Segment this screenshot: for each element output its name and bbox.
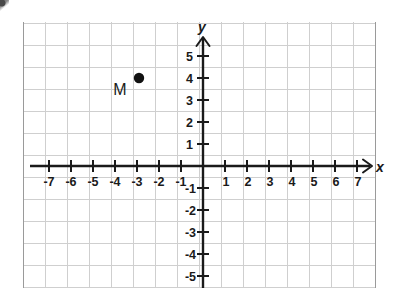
x-tick-label: -2 (153, 175, 164, 189)
x-tick-label: -3 (131, 175, 142, 189)
x-tick-label: 6 (333, 175, 340, 189)
y-tick-label: -1 (185, 182, 196, 196)
x-tick-label: 7 (355, 175, 362, 189)
y-tick-label: 3 (186, 94, 193, 108)
y-axis-label: y (197, 19, 207, 35)
x-tick-label: -4 (109, 175, 120, 189)
grid-lines (23, 22, 376, 288)
x-tick-label: 4 (289, 175, 296, 189)
y-tick-label: 5 (186, 50, 193, 64)
coordinate-plane-svg: -7 -6 -5 -4 -3 -2 -1 1 2 3 4 5 6 7 5 4 3… (0, 0, 400, 303)
x-tick-label: 3 (267, 175, 274, 189)
y-tick-label: -4 (185, 248, 196, 262)
y-tick-label: 2 (186, 116, 193, 130)
point-label-m: M (113, 81, 126, 98)
x-tick-label: 5 (311, 175, 318, 189)
x-tick-label: 2 (245, 175, 252, 189)
x-tick-label: -7 (43, 175, 54, 189)
axis-arrows (197, 37, 373, 173)
x-axis-label: x (375, 159, 385, 175)
point-marker-m (134, 73, 144, 83)
y-tick-label: 4 (186, 72, 193, 86)
y-tick-label: 1 (186, 138, 193, 152)
coordinate-plane-figure: -7 -6 -5 -4 -3 -2 -1 1 2 3 4 5 6 7 5 4 3… (0, 0, 400, 303)
y-tick-label: -5 (185, 270, 196, 284)
x-tick-label: 1 (223, 175, 230, 189)
y-tick-label: -2 (185, 204, 196, 218)
x-tick-label: -5 (87, 175, 98, 189)
x-tick-label: -6 (65, 175, 76, 189)
y-tick-label: -3 (185, 226, 196, 240)
plotted-point-m: M (113, 73, 144, 98)
